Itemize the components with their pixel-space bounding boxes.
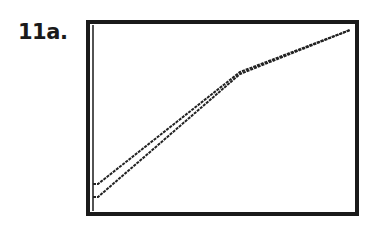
calculator-graph-screen <box>0 0 372 232</box>
upper-line <box>93 30 350 184</box>
graph-frame <box>88 22 357 214</box>
lower-line <box>93 30 350 197</box>
